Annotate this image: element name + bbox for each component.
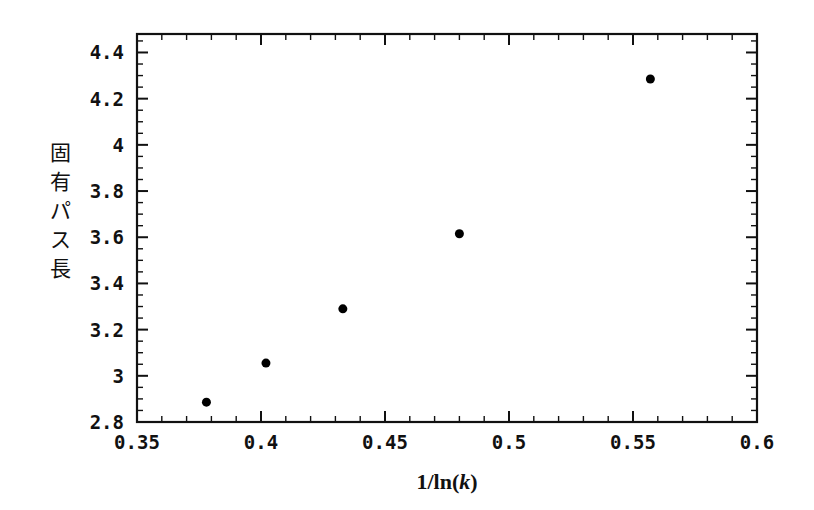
y-tick-label: 4: [113, 134, 124, 156]
y-axis-title: 固有パス長: [50, 141, 71, 281]
y-tick-label: 2.8: [90, 411, 124, 433]
data-point: [646, 75, 655, 84]
y-axis-title-char: ス: [50, 228, 71, 252]
x-axis-title: 1/ln(k): [416, 469, 477, 494]
scatter-plot-figure: 0.350.40.450.50.550.6 2.833.23.43.63.844…: [0, 0, 814, 510]
x-tick-label: 0.6: [740, 431, 774, 453]
x-tick-label: 0.55: [610, 431, 656, 453]
y-tick-label: 3.2: [90, 319, 124, 341]
y-tick-label: 3: [113, 365, 124, 387]
data-point: [261, 359, 270, 368]
y-tick-label: 3.6: [90, 226, 124, 248]
y-axis-title-char: 長: [50, 257, 71, 281]
y-tick-label: 3.8: [90, 180, 124, 202]
data-point: [338, 304, 347, 313]
x-tick-label: 0.4: [244, 431, 278, 453]
y-axis-title-char: パ: [50, 199, 71, 223]
x-tick-label: 0.35: [114, 431, 160, 453]
y-tick-label: 4.4: [90, 41, 124, 63]
y-axis-title-char: 固: [50, 141, 71, 165]
data-point: [202, 398, 211, 407]
y-tick-label: 4.2: [90, 88, 124, 110]
y-tick-label: 3.4: [90, 272, 124, 294]
y-axis-title-char: 有: [50, 170, 71, 194]
x-tick-label: 0.5: [492, 431, 526, 453]
x-tick-label: 0.45: [362, 431, 408, 453]
data-point: [455, 229, 464, 238]
